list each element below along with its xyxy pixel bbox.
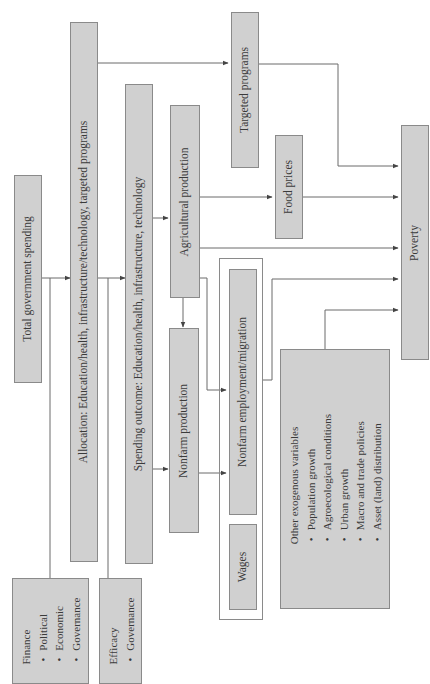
node-nonfarm-employment-migration: Nonfarm employment/migration [229,269,257,515]
node-agricultural-production: Agricultural production [170,105,200,298]
node-poverty: Poverty [401,125,429,360]
node-efficacy: Efficacy Governance [99,578,142,684]
exogenous-list: Other exogenous variables Population gro… [286,414,385,544]
finance-item: Economic [51,598,68,665]
exogenous-item: Macro and trade policies [352,414,369,544]
exogenous-item: Urban growth [335,414,352,544]
exogenous-item: Population growth [302,414,319,544]
node-label: Nonfarm employment/migration [236,317,250,467]
efficacy-title: Efficacy [104,598,121,665]
node-label: Nonfarm production [177,383,191,477]
finance-list: Finance Political Economic Governance [18,598,84,665]
finance-item: Political [34,598,51,665]
exogenous-title: Other exogenous variables [286,414,303,544]
node-label: Targeted programs [238,47,252,133]
exogenous-item: Agroecological conditions [319,414,336,544]
efficacy-item: Governance [121,598,138,665]
node-food-prices: Food prices [275,135,303,239]
node-label: Total government spending [21,216,35,342]
finance-title: Finance [18,598,35,665]
node-spending-outcome: Spending outcome: Education/health, infr… [125,84,153,564]
node-finance: Finance Political Economic Governance [12,578,89,684]
node-label: Poverty [408,225,422,261]
node-targeted-programs: Targeted programs [231,12,259,168]
node-label: Agricultural production [178,147,192,256]
node-other-exogenous-variables: Other exogenous variables Population gro… [280,349,390,609]
node-allocation: Allocation: Education/health, infrastruc… [70,22,98,562]
node-label: Spending outcome: Education/health, infr… [132,177,146,471]
node-label: Food prices [282,160,296,214]
node-wages: Wages [229,524,257,610]
node-nonfarm-production: Nonfarm production [169,328,199,533]
finance-item: Governance [67,598,84,665]
node-label: Allocation: Education/health, infrastruc… [77,121,91,464]
node-label: Wages [236,552,250,582]
node-total-government-spending: Total government spending [14,175,42,383]
efficacy-list: Efficacy Governance [104,598,137,665]
exogenous-item: Asset (land) distribution [368,414,385,544]
